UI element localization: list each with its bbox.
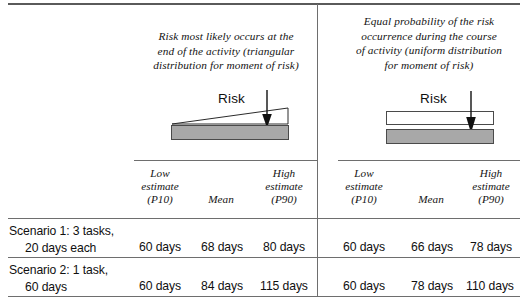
right-diagram: Risk — [378, 92, 508, 147]
table-row-label-scenario-1: Scenario 1: 3 tasks, 20 days each — [9, 223, 114, 256]
scenario-2-line-1: Scenario 2: 1 task, — [9, 263, 108, 277]
right-caption-line-2: occurrence during the course — [336, 29, 522, 44]
right-column-header-mean: Mean — [403, 193, 459, 206]
left-head-low-line2: estimate — [132, 180, 188, 193]
right-column-header-low: Low estimate (P10) — [336, 167, 392, 207]
right-head-high-line1: High — [462, 167, 520, 180]
left-column-header-low: Low estimate (P10) — [132, 167, 188, 207]
row-2-right-low: 60 days — [334, 279, 394, 293]
row-2-right-high: 110 days — [459, 279, 521, 293]
row-1-left-high: 80 days — [254, 240, 314, 254]
left-panel-caption: Risk most likely occurs at the end of th… — [140, 29, 312, 73]
scenario-1-line-1: Scenario 1: 3 tasks, — [9, 224, 114, 238]
right-head-high-line3: (P90) — [462, 193, 520, 206]
left-activity-bar — [171, 125, 289, 140]
right-caption-line-1: Equal probability of the risk — [336, 14, 522, 29]
right-risk-label: Risk — [420, 91, 447, 106]
row-separator-rule — [8, 257, 520, 258]
left-column-header-rule — [134, 160, 317, 161]
header-body-rule — [8, 218, 520, 219]
left-diagram: Risk — [160, 92, 310, 142]
right-head-low-line3: (P10) — [336, 193, 392, 206]
left-head-mean-line: Mean — [193, 193, 249, 206]
right-head-mean-line: Mean — [403, 193, 459, 206]
left-caption-line-3: distribution for moment of risk) — [140, 58, 312, 73]
right-panel-caption: Equal probability of the risk occurrence… — [336, 14, 522, 72]
row-1-left-low: 60 days — [130, 240, 190, 254]
bottom-border-rule — [8, 296, 520, 297]
left-head-high-line2: estimate — [255, 180, 313, 193]
left-head-low-line3: (P10) — [132, 193, 188, 206]
table-row-label-scenario-2: Scenario 2: 1 task, 60 days — [9, 262, 108, 295]
right-caption-line-3: of activity (uniform distribution — [336, 43, 522, 58]
left-column-header-high: High estimate (P90) — [255, 167, 313, 207]
right-head-low-line2: estimate — [336, 180, 392, 193]
row-2-right-mean: 78 days — [402, 279, 462, 293]
top-border-rule — [8, 3, 520, 5]
left-caption-line-1: Risk most likely occurs at the — [140, 29, 312, 44]
right-activity-bar — [386, 129, 494, 144]
right-column-header-rule — [338, 160, 520, 161]
right-caption-line-4: for moment of risk) — [336, 58, 522, 73]
right-head-low-line1: Low — [336, 167, 392, 180]
scenario-2-line-2: 60 days — [9, 279, 108, 296]
row-1-left-mean: 68 days — [192, 240, 252, 254]
left-caption-line-2: end of the activity (triangular — [140, 44, 312, 59]
panel-divider-rule — [317, 4, 318, 297]
row-2-left-high: 115 days — [252, 279, 316, 293]
left-column-header-mean: Mean — [193, 193, 249, 206]
left-head-low-line1: Low — [132, 167, 188, 180]
row-1-right-high: 78 days — [461, 240, 521, 254]
figure-table: Risk most likely occurs at the end of th… — [0, 0, 528, 304]
right-column-header-high: High estimate (P90) — [462, 167, 520, 207]
row-2-left-low: 60 days — [130, 279, 190, 293]
row-1-right-low: 60 days — [334, 240, 394, 254]
left-head-high-line1: High — [255, 167, 313, 180]
right-head-high-line2: estimate — [462, 180, 520, 193]
row-1-right-mean: 66 days — [402, 240, 462, 254]
left-head-high-line3: (P90) — [255, 193, 313, 206]
row-2-left-mean: 84 days — [192, 279, 252, 293]
scenario-1-line-2: 20 days each — [9, 240, 114, 257]
